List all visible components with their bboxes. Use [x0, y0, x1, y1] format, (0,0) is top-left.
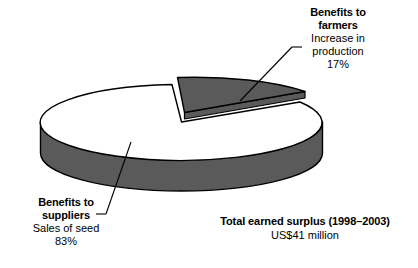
slice-label-farmers-detail-line2: production [268, 45, 408, 58]
slice-label-suppliers: Benefits to suppliers Sales of seed 83% [2, 196, 130, 248]
slice-label-farmers-percent: 17% [268, 58, 408, 71]
pie-chart-figure: Benefits to farmers Increase in producti… [0, 0, 418, 268]
slice-label-farmers: Benefits to farmers Increase in producti… [268, 6, 408, 71]
slice-label-farmers-title-line1: Benefits to [268, 6, 408, 19]
chart-caption-value: US$41 million [196, 229, 414, 243]
slice-label-suppliers-detail-line1: Sales of seed [2, 222, 130, 235]
chart-caption-title: Total earned surplus (1998–2003) [196, 215, 414, 229]
slice-label-suppliers-title-line2: suppliers [2, 209, 130, 222]
chart-caption: Total earned surplus (1998–2003) US$41 m… [196, 215, 414, 243]
slice-label-farmers-title-line2: farmers [268, 19, 408, 32]
slice-label-farmers-detail-line1: Increase in [268, 32, 408, 45]
slice-label-suppliers-percent: 83% [2, 235, 130, 248]
slice-label-suppliers-title-line1: Benefits to [2, 196, 130, 209]
